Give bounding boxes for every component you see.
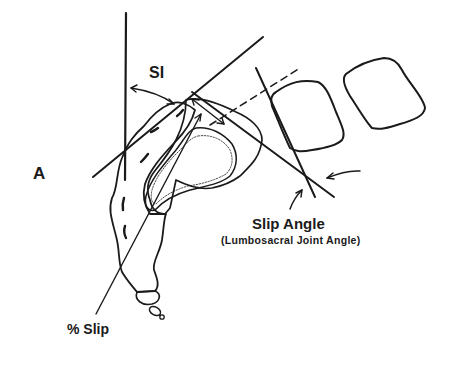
l5-body-outline xyxy=(145,128,236,211)
sacral-inclination-label: SI xyxy=(149,64,164,82)
l5-dotted-outline xyxy=(151,136,232,204)
l5-vertebra-outline xyxy=(148,99,262,214)
sacral-tangent-line xyxy=(93,37,263,177)
sacral-foramen xyxy=(177,110,183,116)
l5-anterior-line xyxy=(256,68,315,197)
sacral-foramen xyxy=(141,154,148,162)
l4-vertebra xyxy=(271,81,343,151)
percent-slip-line xyxy=(96,114,201,314)
diagram-drawing xyxy=(0,0,455,373)
l3-vertebra xyxy=(344,58,425,129)
percent-slip-label: % Slip xyxy=(67,321,109,337)
slip-angle-label: Slip Angle xyxy=(252,215,325,232)
coccyx-segment-3 xyxy=(160,315,164,319)
l5-posterior-line xyxy=(192,92,334,197)
sacral-foramen xyxy=(124,226,126,238)
lumbosacral-joint-angle-label: (Lumbosacral Joint Angle) xyxy=(221,234,361,246)
sacral-foramen xyxy=(123,198,124,210)
vertical-reference-line xyxy=(125,13,126,180)
panel-label: A xyxy=(33,164,45,184)
dashed-reference-line xyxy=(210,68,300,125)
si-arc xyxy=(131,88,174,104)
coccyx-segment-1 xyxy=(136,291,159,304)
spondylolisthesis-diagram: A SI Slip Angle (Lumbosacral Joint Angle… xyxy=(0,0,455,373)
